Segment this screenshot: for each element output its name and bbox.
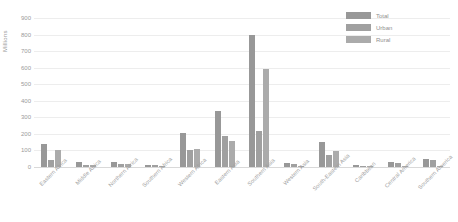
bar-group: [103, 18, 138, 167]
x-label-cell: Middle Africa: [69, 168, 104, 222]
x-label-cell: Southern Asia: [242, 168, 277, 222]
bar[interactable]: [353, 165, 359, 167]
legend-swatch-icon: [346, 36, 371, 43]
x-label-cell: Western Asia: [277, 168, 312, 222]
y-tick-label: 100: [21, 147, 31, 153]
bar[interactable]: [180, 133, 186, 167]
bar-chart: Millions 0100200300400500600700800900 Ea…: [0, 0, 458, 222]
y-tick-label: 800: [21, 32, 31, 38]
x-label-cell: South-Eastern Asia: [311, 168, 346, 222]
x-label-cell: Western Africa: [173, 168, 208, 222]
y-axis-title: Millions: [2, 30, 8, 52]
x-axis-labels: Eastern AfricaMiddle AfricaNorthern Afri…: [34, 168, 450, 222]
x-label-cell: Central America: [381, 168, 416, 222]
bar-group: [34, 18, 69, 167]
bar[interactable]: [319, 142, 325, 167]
x-label-cell: Eastern Africa: [34, 168, 69, 222]
bar[interactable]: [388, 162, 394, 167]
bar-group: [69, 18, 104, 167]
bar[interactable]: [249, 35, 255, 167]
bar[interactable]: [145, 165, 151, 167]
y-tick-label: 700: [21, 48, 31, 54]
bar[interactable]: [222, 136, 228, 167]
bar[interactable]: [423, 159, 429, 167]
y-tick-label: 900: [21, 15, 31, 21]
y-tick-label: 300: [21, 114, 31, 120]
bar-group: [415, 18, 450, 167]
legend-label: Rural: [376, 37, 390, 43]
y-tick-label: 400: [21, 98, 31, 104]
bar[interactable]: [41, 144, 47, 167]
bar-group: [173, 18, 208, 167]
bar[interactable]: [215, 111, 221, 167]
bar-group: [277, 18, 312, 167]
y-tick-label: 200: [21, 131, 31, 137]
y-tick-label: 0: [28, 164, 31, 170]
bar[interactable]: [256, 131, 262, 167]
x-label-cell: Northern Africa: [103, 168, 138, 222]
x-label-cell: Southern Africa: [138, 168, 173, 222]
bar-group: [242, 18, 277, 167]
bar-group: [138, 18, 173, 167]
legend-label: Total: [376, 13, 389, 19]
x-label-cell: Caribbean: [346, 168, 381, 222]
x-label-cell: Eastern Asia: [207, 168, 242, 222]
chart-legend: TotalUrbanRural: [346, 12, 392, 43]
x-label-cell: Southern America: [415, 168, 450, 222]
legend-swatch-icon: [346, 24, 371, 31]
bar-group: [207, 18, 242, 167]
legend-label: Urban: [376, 25, 392, 31]
legend-swatch-icon: [346, 12, 371, 19]
legend-item-rural[interactable]: Rural: [346, 36, 392, 43]
bar[interactable]: [430, 160, 436, 167]
bar[interactable]: [284, 163, 290, 167]
legend-item-urban[interactable]: Urban: [346, 24, 392, 31]
y-tick-label: 500: [21, 81, 31, 87]
bar[interactable]: [263, 69, 269, 168]
y-tick-label: 600: [21, 65, 31, 71]
bar-group: [311, 18, 346, 167]
bar[interactable]: [76, 162, 82, 167]
bar[interactable]: [187, 150, 193, 167]
bar[interactable]: [326, 155, 332, 167]
legend-item-total[interactable]: Total: [346, 12, 392, 19]
bar[interactable]: [111, 162, 117, 167]
